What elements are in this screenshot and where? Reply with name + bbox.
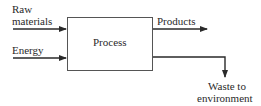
products-label: Products — [157, 15, 196, 27]
waste-arrow — [153, 57, 225, 77]
energy-label: Energy — [12, 44, 44, 56]
process-label: Process — [93, 36, 127, 48]
raw-materials-label-1: Raw — [12, 3, 32, 15]
raw-materials-label-2: materials — [12, 15, 52, 27]
waste-label-2: environment — [197, 92, 253, 104]
waste-label-1: Waste to — [208, 80, 246, 92]
